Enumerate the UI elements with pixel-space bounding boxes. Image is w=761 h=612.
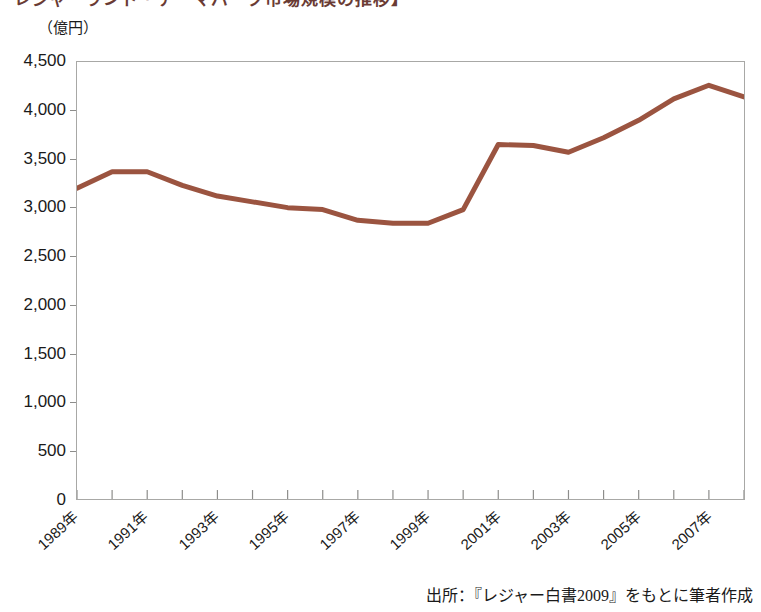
x-axis-tick-label: 2003年 bbox=[525, 506, 575, 554]
x-axis-tick-label: 1991年 bbox=[102, 506, 152, 554]
x-axis-tick-label: 2001年 bbox=[455, 506, 505, 554]
x-axis-tick-label: 1989年 bbox=[32, 506, 82, 554]
y-axis-tick-label: 4,000 bbox=[0, 101, 66, 118]
y-axis-tick-label: 3,500 bbox=[0, 150, 66, 167]
line-chart-svg bbox=[77, 62, 744, 499]
y-axis-tick-label: 1,500 bbox=[0, 345, 66, 362]
y-axis-tick-label: 500 bbox=[0, 442, 66, 459]
x-axis-tick-label: 1997年 bbox=[314, 506, 364, 554]
y-axis-tick-label: 2,000 bbox=[0, 296, 66, 313]
source-note: 出所：『レジャー白書2009』をもとに筆者作成 bbox=[426, 582, 753, 606]
y-axis-tick-label: 3,000 bbox=[0, 198, 66, 215]
y-axis-unit-label: （億円） bbox=[38, 16, 98, 37]
y-axis-tick-label: 4,500 bbox=[0, 52, 66, 69]
x-axis-tick-label: 1999年 bbox=[384, 506, 434, 554]
y-axis-tick-label: 2,500 bbox=[0, 247, 66, 264]
x-axis-tick-label: 2007年 bbox=[666, 506, 716, 554]
y-axis-tick-label: 1,000 bbox=[0, 393, 66, 410]
figure-title-strip: レジャーランド・テーマパーク市場規模の推移】 bbox=[0, 0, 761, 9]
page-title: レジャーランド・テーマパーク市場規模の推移】 bbox=[14, 0, 409, 9]
x-axis-tick-label: 1993年 bbox=[173, 506, 223, 554]
x-axis-tick-label: 1995年 bbox=[243, 506, 293, 554]
data-series-line bbox=[77, 85, 744, 223]
chart-plot-area bbox=[76, 61, 745, 500]
y-axis-tick-label: 0 bbox=[0, 491, 66, 508]
x-axis-tick-label: 2005年 bbox=[595, 506, 645, 554]
